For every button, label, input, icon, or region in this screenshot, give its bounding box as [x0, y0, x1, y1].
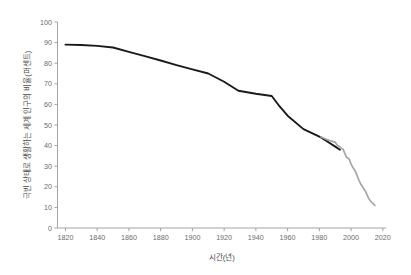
y-tick-label: 100 — [40, 18, 52, 27]
y-tick-label: 50 — [44, 121, 52, 130]
y-tick-label: 70 — [44, 79, 52, 88]
y-tick-label: 30 — [44, 162, 52, 171]
y-tick-label: 0 — [48, 224, 52, 233]
y-tick-label: 40 — [44, 141, 52, 150]
y-tick-label: 60 — [44, 100, 52, 109]
x-tick-label: 1900 — [184, 233, 200, 242]
x-tick-label: 2000 — [343, 233, 359, 242]
x-tick-label: 1960 — [280, 233, 296, 242]
y-tick-label: 20 — [44, 182, 52, 191]
y-tick-label: 80 — [44, 59, 52, 68]
x-tick-label: 1840 — [89, 233, 105, 242]
x-axis-title: 시간(년) — [209, 252, 236, 262]
x-tick-label: 2020 — [375, 233, 391, 242]
x-tick-label: 1940 — [248, 233, 264, 242]
y-tick-label: 10 — [44, 203, 52, 212]
x-tick-label: 1820 — [57, 233, 73, 242]
chart-container: 0102030405060708090100 18201840186018801… — [0, 0, 411, 275]
x-tick-label: 1980 — [311, 233, 327, 242]
x-tick-label: 1860 — [121, 233, 137, 242]
line-chart: 0102030405060708090100 18201840186018801… — [0, 0, 411, 275]
y-tick-label: 90 — [44, 38, 52, 47]
x-tick-label: 1880 — [153, 233, 169, 242]
x-tick-label: 1920 — [216, 233, 232, 242]
y-axis-title: 극빈 상태로 생활하는 세계 인구의 비율(퍼센트) — [22, 50, 32, 199]
